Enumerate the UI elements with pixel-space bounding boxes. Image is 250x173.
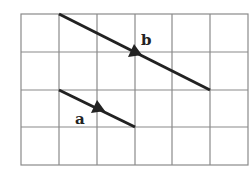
vector-a-label: a [75, 110, 85, 128]
vector-b-label: b [141, 31, 152, 49]
grid [21, 14, 248, 165]
vector-grid-diagram: b a [0, 0, 250, 173]
